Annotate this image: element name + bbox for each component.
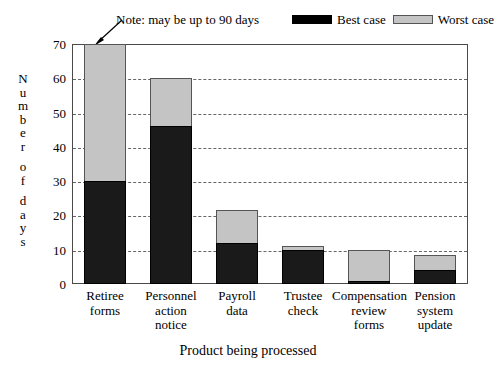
legend-entry-best-case: Best case bbox=[292, 13, 386, 26]
legend-label-worst-case: Worst case bbox=[438, 13, 494, 26]
bar-group[interactable] bbox=[84, 44, 126, 284]
y-axis-title-letter: N bbox=[14, 72, 32, 86]
bar-segment-best-case[interactable] bbox=[150, 126, 192, 284]
x-axis-category-label-line: Pension bbox=[398, 289, 472, 304]
y-axis-title-letter: d bbox=[14, 194, 32, 208]
x-axis-category-label-line: system bbox=[398, 304, 472, 319]
x-axis-category-label-line: Personnel bbox=[134, 289, 208, 304]
y-axis-title-letter: s bbox=[14, 235, 32, 249]
bar-segment-best-case[interactable] bbox=[414, 270, 456, 284]
y-axis-title-letter: r bbox=[14, 140, 32, 154]
x-axis-category-label-line: data bbox=[200, 304, 274, 319]
y-axis-title-letter: o bbox=[14, 160, 32, 174]
y-axis-tick-label: 60 bbox=[40, 72, 66, 85]
x-axis-category-label: Retireeforms bbox=[68, 289, 142, 318]
x-axis-category-label-line: notice bbox=[134, 318, 208, 333]
legend-label-best-case: Best case bbox=[337, 13, 386, 26]
y-axis-tick-label: 20 bbox=[40, 209, 66, 222]
x-axis-category-label: Payrolldata bbox=[200, 289, 274, 318]
x-axis-category-label-line: action bbox=[134, 304, 208, 319]
bar-segment-best-case[interactable] bbox=[348, 281, 390, 284]
y-axis-title-letter: b bbox=[14, 113, 32, 127]
y-axis-tick-labels: 010203040506070 bbox=[36, 44, 66, 284]
y-axis-title-letter: y bbox=[14, 221, 32, 235]
bar-group[interactable] bbox=[414, 255, 456, 284]
x-axis-category-label: Pensionsystemupdate bbox=[398, 289, 472, 333]
y-axis-tick-label: 70 bbox=[40, 38, 66, 51]
black-swatch-icon bbox=[292, 15, 332, 24]
chart-annotation-note: Note: may be up to 90 days bbox=[116, 13, 259, 26]
legend-entry-worst-case: Worst case bbox=[393, 13, 494, 26]
x-axis-category-label-line: Compensation bbox=[332, 289, 406, 304]
y-axis-title: Numberofdays bbox=[14, 72, 32, 248]
y-axis-title-letter: f bbox=[14, 174, 32, 188]
x-axis-category-label-line: Trustee bbox=[266, 289, 340, 304]
x-axis-category-label-line: check bbox=[266, 304, 340, 319]
y-axis-title-letter: a bbox=[14, 208, 32, 222]
bar-chart-figure: Note: may be up to 90 days Best case Wor… bbox=[0, 0, 496, 367]
bar-segment-best-case[interactable] bbox=[216, 243, 258, 284]
y-axis-tick-label: 30 bbox=[40, 175, 66, 188]
x-axis-category-label: Compensationreviewforms bbox=[332, 289, 406, 333]
y-axis-tick-label: 40 bbox=[40, 140, 66, 153]
y-axis-tick-label: 10 bbox=[40, 243, 66, 256]
bar-group[interactable] bbox=[348, 250, 390, 284]
x-axis-category-labels: RetireeformsPersonnelactionnoticePayroll… bbox=[72, 289, 468, 347]
bar-segment-best-case[interactable] bbox=[282, 250, 324, 284]
bar-segment-best-case[interactable] bbox=[84, 181, 126, 284]
y-axis-tick-label: 50 bbox=[40, 106, 66, 119]
x-axis-category-label: Personnelactionnotice bbox=[134, 289, 208, 333]
x-axis-category-label-line: forms bbox=[332, 318, 406, 333]
x-axis-category-label: Trusteecheck bbox=[266, 289, 340, 318]
y-axis-title-letter: u bbox=[14, 86, 32, 100]
bars-layer bbox=[72, 44, 468, 284]
x-axis-title: Product being processed bbox=[0, 344, 496, 358]
bar-group[interactable] bbox=[282, 246, 324, 284]
y-axis-title-letter: m bbox=[14, 99, 32, 113]
x-axis-category-label-line: Payroll bbox=[200, 289, 274, 304]
bar-group[interactable] bbox=[216, 210, 258, 284]
bar-group[interactable] bbox=[150, 78, 192, 284]
x-axis-category-label-line: update bbox=[398, 318, 472, 333]
gray-swatch-icon bbox=[393, 15, 433, 24]
chart-legend: Best case Worst case bbox=[292, 13, 494, 26]
y-axis-tick-label: 0 bbox=[40, 278, 66, 291]
x-axis-category-label-line: Retiree bbox=[68, 289, 142, 304]
x-axis-category-label-line: forms bbox=[68, 304, 142, 319]
x-axis-category-label-line: review bbox=[332, 304, 406, 319]
bar-segment-worst-case[interactable] bbox=[348, 250, 390, 284]
y-axis-title-letter: e bbox=[14, 126, 32, 140]
